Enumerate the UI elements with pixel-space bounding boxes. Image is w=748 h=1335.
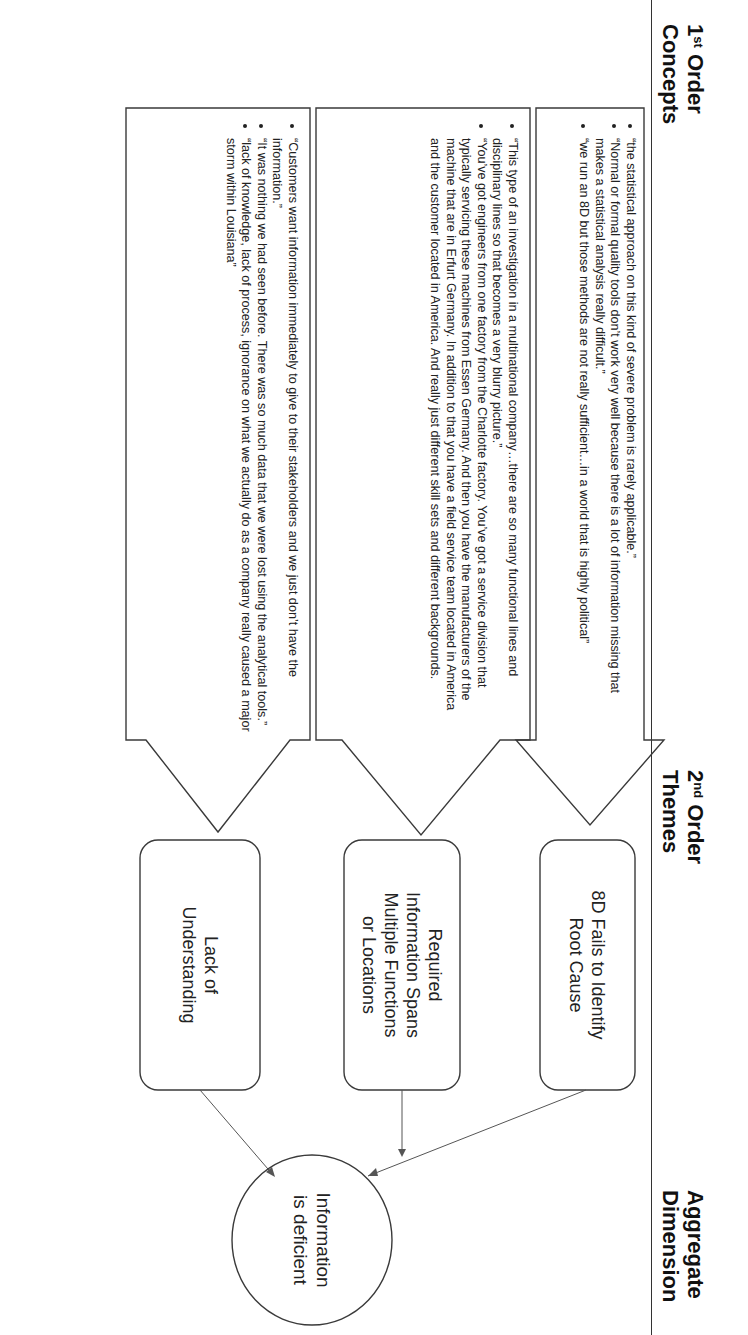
theme-line: Understanding [178, 906, 200, 1023]
concept-quote: “we run an 8D but those methods are not … [576, 138, 592, 732]
theme-line: 8D Fails to Identify [588, 890, 610, 1039]
concept-quote: “You’ve got engineers from one factory f… [426, 138, 488, 732]
aggregate-line: is deficient [289, 1192, 312, 1287]
concept-quote: “Customers want information immediately … [269, 138, 300, 732]
theme-lack-of-understanding: Lack of Understanding [140, 840, 260, 1090]
theme-line: or Locations [358, 892, 380, 1038]
concept-box-1: “the statistical approach on this kind o… [536, 108, 644, 740]
theme-information-spans: Required Information Spans Multiple Func… [344, 840, 460, 1090]
concept-quote: “Normal or formal quality tools don’t wo… [591, 138, 622, 732]
theme-line: Multiple Functions [380, 892, 402, 1038]
concept-quote: “the statistical approach on this kind o… [622, 138, 638, 732]
aggregate-information-deficient: Information is deficient [232, 1155, 392, 1325]
theme-line: Lack of [200, 906, 222, 1023]
concept-quote: “This type of an investigation in a mult… [489, 138, 520, 732]
theme-line: Information Spans [402, 892, 424, 1038]
theme-8d-fails: 8D Fails to Identify Root Cause [540, 840, 635, 1090]
concept-quote: “lack of knowledge, lack of process, ign… [222, 138, 253, 732]
connector-theme1-to-aggregate [368, 1090, 586, 1176]
concept-box-2: “This type of an investigation in a mult… [316, 108, 526, 740]
aggregate-line: Information [312, 1192, 335, 1287]
concept-quote: “It was nothing we had seen before. Ther… [253, 138, 269, 732]
concept-box-3: “Customers want information immediately … [126, 108, 306, 740]
theme-line: Required [424, 892, 446, 1038]
theme-line: Root Cause [566, 890, 588, 1039]
data-structure-diagram: 1st Order Concepts 2nd Order Themes Aggr… [0, 0, 748, 1335]
arrowhead-icon [398, 1149, 406, 1157]
